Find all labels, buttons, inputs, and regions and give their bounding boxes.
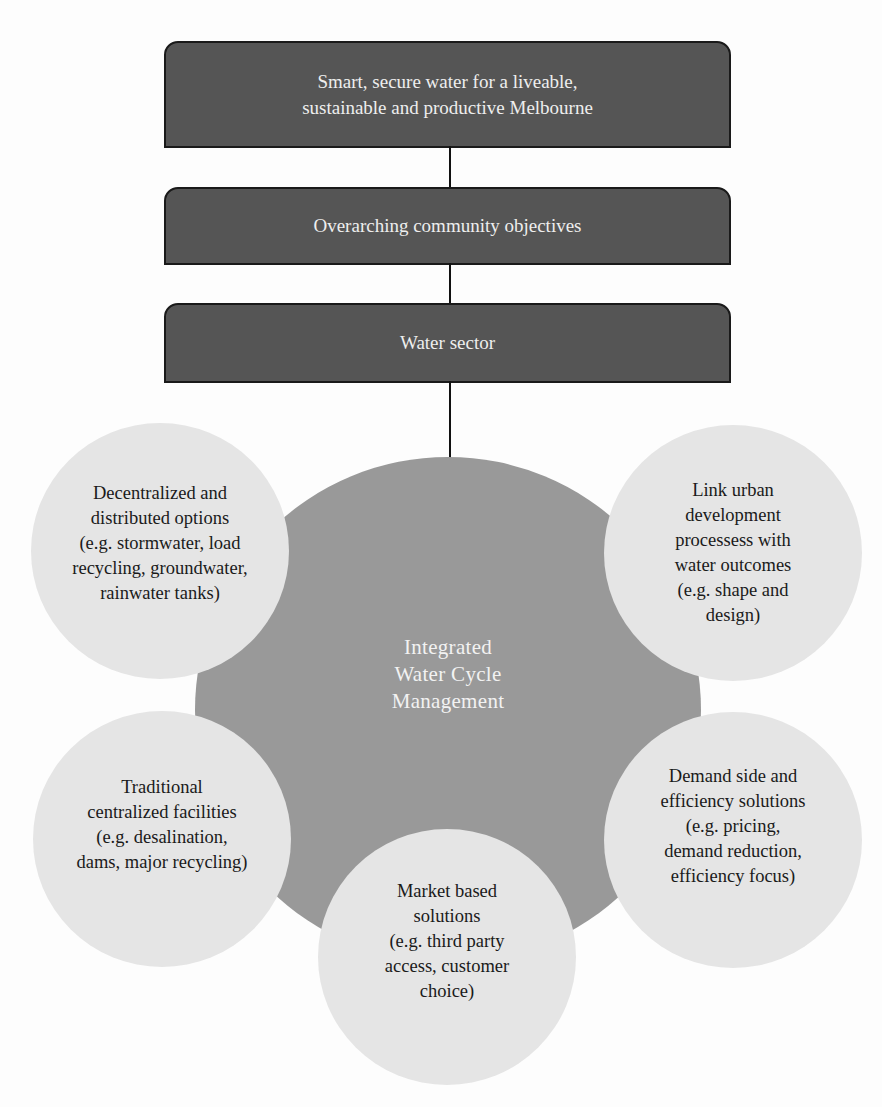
link-urban-development-circle: Link urban development processess with w… [604,425,862,681]
decentralized-options-label: Decentralized and distributed options (e… [72,481,247,606]
connector-vision-objectives [449,146,451,187]
market-solutions-circle: Market based solutions (e.g. third party… [318,829,576,1085]
iwcm-label: Integrated Water Cycle Management [392,634,505,715]
traditional-facilities-circle: Traditional centralized facilities (e.g.… [33,711,291,967]
demand-side-label: Demand side and efficiency solutions (e.… [660,764,805,889]
vision-label: Smart, secure water for a liveable, sust… [302,69,593,121]
demand-side-circle: Demand side and efficiency solutions (e.… [604,712,862,968]
traditional-facilities-label: Traditional centralized facilities (e.g.… [76,775,247,875]
connector-sector-center [449,381,451,459]
decentralized-options-circle: Decentralized and distributed options (e… [31,423,289,679]
objectives-box: Overarching community objectives [164,187,731,265]
connector-objectives-sector [449,263,451,303]
link-urban-development-label: Link urban development processess with w… [675,478,792,628]
market-solutions-label: Market based solutions (e.g. third party… [385,879,509,1004]
objectives-label: Overarching community objectives [313,213,581,239]
water-sector-label: Water sector [400,330,495,356]
water-sector-box: Water sector [164,303,731,383]
vision-box: Smart, secure water for a liveable, sust… [164,41,731,148]
